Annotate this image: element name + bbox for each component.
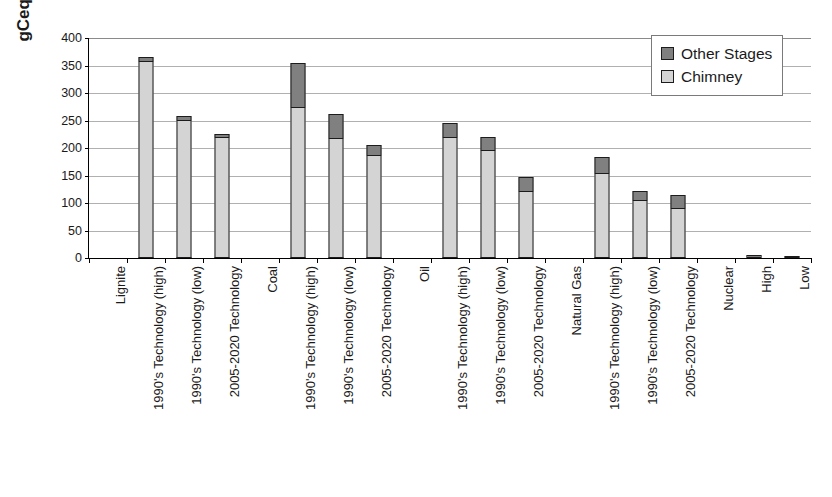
bar-segment-other-stages[interactable]: [519, 177, 534, 192]
x-axis-tick-mark: [279, 258, 280, 263]
x-axis-tick-mark: [165, 258, 166, 263]
x-axis-tick-mark: [811, 258, 812, 263]
stacked-bar[interactable]: [481, 137, 496, 258]
x-axis-label-slot: 1990's Technology (high): [278, 266, 316, 486]
y-axis-tick-label: 0: [75, 251, 82, 265]
bar-slot: [279, 38, 317, 258]
stacked-bar[interactable]: [747, 255, 762, 258]
x-axis-label-slot: 1990's Technology (high): [126, 266, 164, 486]
bar-segment-other-stages[interactable]: [633, 191, 648, 201]
x-axis-tick-mark: [735, 258, 736, 263]
bar-segment-other-stages[interactable]: [291, 63, 306, 109]
legend-label-chimney: Chimney: [681, 68, 742, 86]
x-axis-label-slot: 2005-2020 Technology: [202, 266, 240, 486]
y-axis-tick-label: 300: [61, 86, 82, 100]
x-axis-label-slot: 1990's Technology (low): [316, 266, 354, 486]
legend-item-chimney[interactable]: Chimney: [661, 65, 772, 88]
x-axis-label-slot: 2005-2020 Technology: [658, 266, 696, 486]
x-axis-category-label: Low: [798, 266, 811, 290]
x-axis-label-slot: 1990's Technology (low): [620, 266, 658, 486]
bar-segment-chimney[interactable]: [177, 121, 192, 259]
bar-slot: [317, 38, 355, 258]
bar-slot: [127, 38, 165, 258]
y-axis-tick-mark: [85, 38, 89, 39]
bar-segment-other-stages[interactable]: [367, 145, 382, 155]
x-axis-tick-mark: [317, 258, 318, 263]
bar-segment-other-stages[interactable]: [785, 256, 800, 258]
bar-segment-chimney[interactable]: [519, 192, 534, 258]
stacked-bar[interactable]: [329, 114, 344, 258]
bar-slot: [431, 38, 469, 258]
bar-segment-other-stages[interactable]: [747, 255, 762, 258]
bar-slot: [507, 38, 545, 258]
y-axis-tick-mark: [85, 148, 89, 149]
x-axis-label-slot: Lignite: [88, 266, 126, 486]
bar-segment-chimney[interactable]: [633, 201, 648, 258]
y-axis-tick-mark: [85, 93, 89, 94]
stacked-bar[interactable]: [291, 63, 306, 258]
x-axis-category-label: 1990's Technology (low): [342, 266, 355, 405]
stacked-bar[interactable]: [595, 157, 610, 258]
bar-segment-other-stages[interactable]: [595, 157, 610, 174]
y-axis-tick-label: 200: [61, 141, 82, 155]
bar-segment-chimney[interactable]: [215, 138, 230, 258]
x-axis-label-slot: 1990's Technology (low): [468, 266, 506, 486]
x-axis-category-label: 2005-2020 Technology: [380, 266, 393, 397]
x-axis-category-label: Natural Gas: [570, 266, 583, 335]
legend-swatch-other-stages-icon: [661, 47, 674, 60]
bar-segment-chimney[interactable]: [139, 62, 154, 258]
x-axis-label-slot: 1990's Technology (high): [582, 266, 620, 486]
bar-slot: [355, 38, 393, 258]
y-axis-tick-mark: [85, 176, 89, 177]
bar-segment-other-stages[interactable]: [443, 123, 458, 138]
stacked-bar[interactable]: [177, 116, 192, 258]
y-axis-title: gCeq/kWh: [14, 0, 44, 90]
bar-segment-chimney[interactable]: [291, 108, 306, 258]
x-axis-category-label: 1990's Technology (low): [190, 266, 203, 405]
stacked-bar[interactable]: [671, 195, 686, 258]
y-axis-tick-mark: [85, 121, 89, 122]
bar-segment-chimney[interactable]: [443, 138, 458, 258]
x-axis-label-slot: 2005-2020 Technology: [506, 266, 544, 486]
stacked-bar[interactable]: [443, 123, 458, 258]
x-axis-category-label: Lignite: [114, 266, 127, 304]
x-axis-tick-mark: [355, 258, 356, 263]
x-axis-tick-mark: [393, 258, 394, 263]
x-axis-category-label: 1990's Technology (high): [304, 266, 317, 410]
x-axis-label-slot: Nuclear: [696, 266, 734, 486]
x-axis-tick-mark: [431, 258, 432, 263]
x-axis-category-label: Nuclear: [722, 266, 735, 311]
bar-segment-chimney[interactable]: [671, 209, 686, 259]
stacked-bar[interactable]: [519, 177, 534, 258]
stacked-bar[interactable]: [785, 256, 800, 258]
x-axis-label-slot: Coal: [240, 266, 278, 486]
x-axis-tick-mark: [469, 258, 470, 263]
legend-swatch-chimney-icon: [661, 70, 674, 83]
stacked-bar[interactable]: [633, 191, 648, 258]
bar-segment-chimney[interactable]: [481, 151, 496, 258]
x-axis-category-label: 1990's Technology (low): [494, 266, 507, 405]
x-axis-category-label: 1990's Technology (low): [646, 266, 659, 405]
bar-segment-other-stages[interactable]: [481, 137, 496, 151]
bar-segment-chimney[interactable]: [329, 139, 344, 258]
stacked-bar[interactable]: [367, 145, 382, 258]
bar-slot: [469, 38, 507, 258]
emissions-stacked-bar-chart: gCeq/kWh 050100150200250300350400 Other …: [0, 0, 832, 497]
legend-item-other-stages[interactable]: Other Stages: [661, 42, 772, 65]
bar-segment-chimney[interactable]: [595, 174, 610, 258]
x-axis-tick-mark: [697, 258, 698, 263]
stacked-bar[interactable]: [215, 134, 230, 258]
bar-segment-chimney[interactable]: [367, 156, 382, 258]
bar-slot: [583, 38, 621, 258]
y-axis-tick-label: 400: [61, 31, 82, 45]
y-axis-tick-mark: [85, 203, 89, 204]
x-axis-tick-mark: [89, 258, 90, 263]
x-axis-tick-mark: [203, 258, 204, 263]
bar-segment-other-stages[interactable]: [329, 114, 344, 139]
x-axis-category-label: High: [760, 266, 773, 293]
bar-segment-other-stages[interactable]: [671, 195, 686, 209]
bar-slot: [165, 38, 203, 258]
stacked-bar[interactable]: [139, 57, 154, 258]
x-axis-category-label: Coal: [266, 266, 279, 293]
chart-legend: Other Stages Chimney: [651, 35, 783, 96]
